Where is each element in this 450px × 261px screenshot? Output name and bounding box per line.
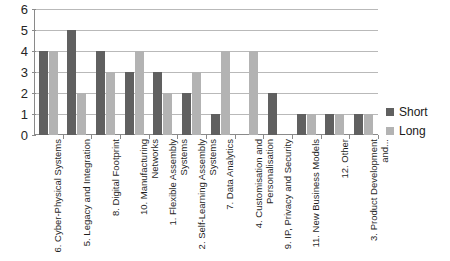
gridline-5	[35, 30, 378, 31]
y-tick-label-6: 6	[21, 3, 28, 16]
gridline-1	[35, 114, 378, 115]
legend-swatch-icon	[386, 108, 394, 116]
y-axis-labels: 0123456	[0, 0, 34, 135]
gridline-6	[35, 9, 378, 10]
y-tick-6	[32, 9, 36, 10]
x-axis-label: 11. New Business Models	[311, 139, 322, 257]
gridline-3	[35, 72, 378, 73]
y-tick-label-1: 1	[21, 108, 28, 121]
y-tick-label-0: 0	[21, 129, 28, 142]
y-tick-label-4: 4	[21, 45, 28, 58]
x-axis-label: 4. Customisation and Personalisation	[254, 139, 275, 257]
gridline-4	[35, 51, 378, 52]
legend-label: Short	[399, 106, 428, 118]
x-axis-labels: 6. Cyber-Physical Systems5. Legacy and I…	[34, 139, 378, 259]
x-axis-label: 9. IP, Privacy and Security	[283, 139, 294, 257]
y-tick-label-3: 3	[21, 66, 28, 79]
y-tick-4	[32, 51, 36, 52]
plot-area	[34, 9, 378, 135]
x-axis-label: 8. Digital Footprint	[111, 139, 122, 257]
y-tick-2	[32, 93, 36, 94]
x-axis-label: 3. Product Development and...	[369, 139, 390, 257]
y-tick-0	[32, 135, 36, 136]
x-axis-label: 12. Other	[340, 139, 351, 257]
x-axis-label: 5. Legacy and Integration	[82, 139, 93, 257]
x-axis-label: 6. Cyber-Physical Systems	[53, 139, 64, 257]
x-axis-label: 1. Flexible Assembly Systems	[168, 139, 189, 257]
y-tick-1	[32, 114, 36, 115]
y-tick-3	[32, 72, 36, 73]
x-axis-label: 7. Data Analytics	[225, 139, 236, 257]
y-tick-5	[32, 30, 36, 31]
gridline-2	[35, 93, 378, 94]
legend-item-long[interactable]: Long	[386, 125, 450, 137]
x-axis-label: 10. Manufacturing Networks	[139, 139, 160, 257]
legend-swatch-icon	[386, 127, 394, 135]
x-axis-label: 2. Self-Learning Assembly Systems	[197, 139, 218, 257]
legend-item-short[interactable]: Short	[386, 106, 450, 118]
y-tick-label-2: 2	[21, 87, 28, 100]
y-tick-label-5: 5	[21, 24, 28, 37]
bar-chart: 0123456 6. Cyber-Physical Systems5. Lega…	[0, 0, 450, 261]
chart-legend: ShortLong	[386, 106, 450, 144]
legend-label: Long	[399, 125, 426, 137]
